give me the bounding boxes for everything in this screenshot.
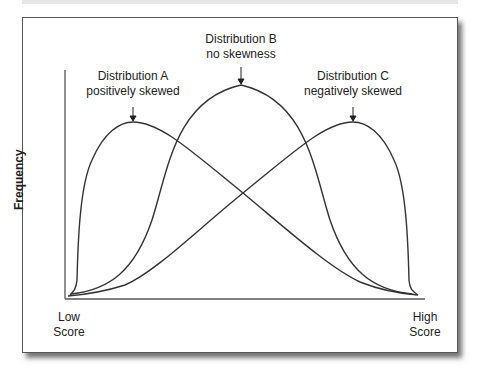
label-a-title: Distribution A bbox=[83, 69, 183, 84]
arrow-b bbox=[238, 67, 244, 84]
label-distribution-a: Distribution A positively skewed bbox=[83, 69, 183, 99]
label-c-desc: negatively skewed bbox=[298, 84, 408, 99]
low-text: Low bbox=[49, 310, 89, 325]
label-c-title: Distribution C bbox=[298, 69, 408, 84]
label-distribution-b: Distribution B no skewness bbox=[191, 32, 291, 62]
curve-distribution-c bbox=[68, 122, 418, 296]
high-score-text: Score bbox=[404, 325, 446, 340]
label-a-desc: positively skewed bbox=[83, 84, 183, 99]
label-distribution-c: Distribution C negatively skewed bbox=[298, 69, 408, 99]
high-text: High bbox=[404, 310, 446, 325]
arrow-c bbox=[350, 107, 356, 121]
x-axis-high-label: High Score bbox=[404, 310, 446, 340]
curve-distribution-b bbox=[71, 85, 412, 294]
label-b-desc: no skewness bbox=[191, 47, 291, 62]
low-score-text: Score bbox=[49, 325, 89, 340]
curve-distribution-a bbox=[70, 122, 418, 295]
label-b-title: Distribution B bbox=[191, 32, 291, 47]
y-axis-label: Frequency bbox=[12, 149, 26, 210]
x-axis-low-label: Low Score bbox=[49, 310, 89, 340]
arrow-a bbox=[130, 107, 136, 121]
